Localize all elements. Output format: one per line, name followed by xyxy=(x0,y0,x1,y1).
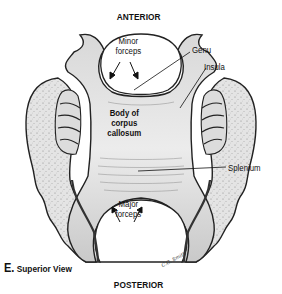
anterior-label: ANTERIOR xyxy=(100,12,177,22)
left-insula xyxy=(55,90,81,154)
view-caption: E. Superior View xyxy=(4,263,72,274)
body-label: Body of corpus callosum xyxy=(104,108,144,138)
minor-forceps-label: Minor forceps xyxy=(110,36,147,56)
posterior-label: POSTERIOR xyxy=(100,280,177,290)
splenium-label: Splenium xyxy=(228,163,261,173)
genu-label: Genu xyxy=(192,45,211,55)
insula-label: Insula xyxy=(204,62,225,72)
major-forceps-label: Major forceps xyxy=(110,199,147,219)
right-insula xyxy=(201,90,227,154)
